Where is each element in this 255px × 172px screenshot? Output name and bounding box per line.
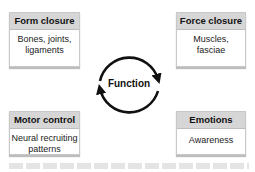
cropped-caption: [9, 163, 249, 169]
force-closure-line-2: fasciae: [177, 45, 245, 56]
motor-control-box: Motor control Neural recruiting patterns: [9, 111, 80, 155]
emotions-box: Emotions Awareness: [176, 111, 246, 155]
motor-control-title: Motor control: [10, 112, 79, 129]
emotions-title: Emotions: [177, 112, 245, 129]
emotions-body: Awareness: [177, 129, 245, 146]
motor-control-body: Neural recruiting patterns: [10, 129, 79, 155]
form-closure-title: Form closure: [10, 13, 79, 30]
form-closure-body: Bones, joints, ligaments: [10, 30, 79, 56]
force-closure-body: Muscles, fasciae: [177, 30, 245, 56]
motor-control-line-1: Neural recruiting: [10, 133, 79, 144]
form-closure-line-2: ligaments: [10, 45, 79, 56]
force-closure-line-1: Muscles,: [177, 34, 245, 45]
emotions-line-1: Awareness: [177, 135, 245, 146]
form-closure-line-1: Bones, joints,: [10, 34, 79, 45]
function-label: Function: [98, 78, 160, 89]
force-closure-title: Force closure: [177, 13, 245, 30]
lower-arrow-icon: [100, 89, 158, 112]
motor-control-line-2: patterns: [10, 144, 79, 155]
force-closure-box: Force closure Muscles, fasciae: [176, 12, 246, 67]
form-closure-box: Form closure Bones, joints, ligaments: [9, 12, 80, 67]
